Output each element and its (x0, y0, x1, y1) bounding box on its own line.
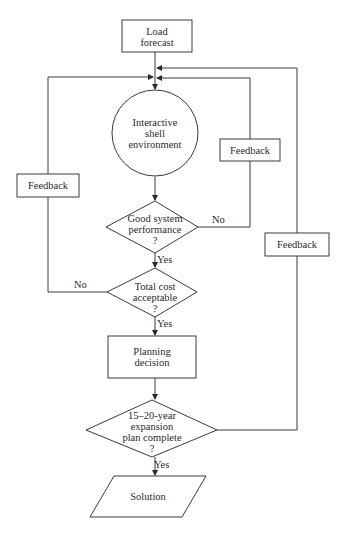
expansion-label: 15–20-year expansion plan complete ? (102, 410, 202, 454)
cost-yes-label: Yes (157, 318, 172, 329)
perf-line2: performance (110, 224, 200, 235)
expansion-line4: ? (102, 443, 202, 454)
perf-yes-label: Yes (157, 254, 172, 265)
cost-line2: acceptable (110, 292, 200, 303)
solution-label: Solution (102, 491, 194, 502)
perf-line1: Good system (110, 213, 200, 224)
cost-no-label: No (74, 279, 87, 290)
planning-line1: Planning (108, 346, 196, 357)
shell-line2: shell (112, 128, 198, 139)
cost-line3: ? (110, 303, 200, 314)
load-forecast-line2: forecast (122, 37, 192, 48)
perf-no-label: No (212, 214, 225, 225)
cost-line1: Total cost (110, 281, 200, 292)
perf-line3: ? (110, 235, 200, 246)
shell-label: Interactive shell environment (112, 117, 198, 150)
shell-line3: environment (112, 139, 198, 150)
load-forecast-label: Load forecast (122, 26, 192, 48)
shell-line1: Interactive (112, 117, 198, 128)
feedback-left-label: Feedback (17, 180, 79, 191)
expansion-yes-label: Yes (154, 459, 169, 470)
feedback-inner-right-label: Feedback (220, 145, 280, 156)
load-forecast-line1: Load (122, 26, 192, 37)
expansion-line3: plan complete (102, 432, 202, 443)
planning-label: Planning decision (108, 346, 196, 368)
perf-label: Good system performance ? (110, 213, 200, 246)
expansion-line2: expansion (102, 421, 202, 432)
feedback-outer-right-label: Feedback (265, 239, 329, 250)
expansion-line1: 15–20-year (102, 410, 202, 421)
cost-label: Total cost acceptable ? (110, 281, 200, 314)
planning-line2: decision (108, 357, 196, 368)
